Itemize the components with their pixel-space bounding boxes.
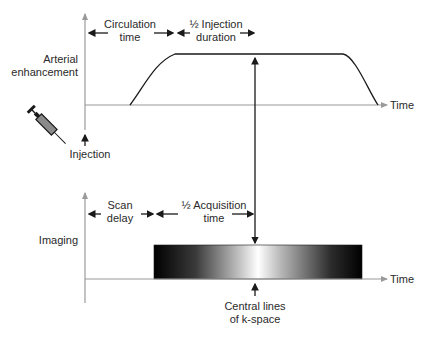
bottom-panel: Time Imaging Scan delay ½ Acquisition ti…	[39, 193, 414, 325]
bottom-x-label: Time	[390, 273, 414, 285]
scan-delay-label-2: delay	[107, 212, 134, 224]
bottom-y-label: Imaging	[39, 234, 78, 246]
timing-diagram: Time Arterial enhancement Circulation ti…	[0, 0, 430, 338]
injection-duration-label-1: ½ Injection	[189, 18, 242, 30]
circulation-label-2: time	[120, 31, 141, 43]
top-y-label-1: Arterial	[43, 53, 78, 65]
top-panel: Time Arterial enhancement Circulation ti…	[11, 14, 414, 160]
syringe-icon	[27, 105, 69, 147]
kspace-label-1: Central lines	[224, 300, 286, 312]
top-x-label: Time	[390, 99, 414, 111]
top-y-label-2: enhancement	[11, 66, 78, 78]
acquisition-label-1: ½ Acquisition	[182, 199, 247, 211]
circulation-label-1: Circulation	[104, 18, 156, 30]
injection-duration-label-2: duration	[196, 31, 236, 43]
enhancement-curve	[130, 54, 378, 105]
scan-delay-label-1: Scan	[107, 199, 132, 211]
injection-label: Injection	[70, 148, 111, 160]
kspace-label-2: of k-space	[230, 313, 281, 325]
kspace-acquisition-bar	[154, 245, 362, 279]
acquisition-label-2: time	[204, 212, 225, 224]
